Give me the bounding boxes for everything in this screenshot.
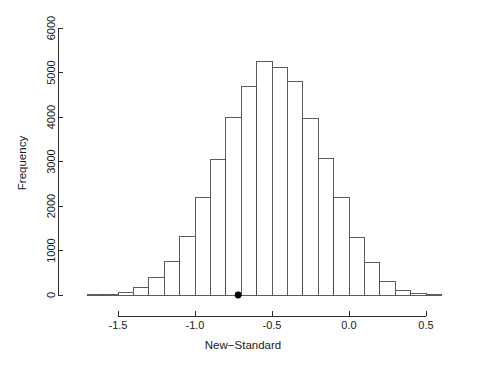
x-axis-tick-label: -0.5 [263,319,282,331]
x-axis-tick-label: 0.5 [418,319,433,331]
x-axis: -1.5-1.0-0.50.00.5 [109,311,434,331]
histogram-bar [349,237,364,295]
histogram-bar [426,294,441,295]
histogram-bar [118,292,133,295]
histogram-bar [180,236,195,295]
histogram-bar [133,287,148,295]
chart-canvas: -1.5-1.0-0.50.00.5 010002000300040005000… [0,0,477,365]
histogram-bar [395,290,410,295]
bars-group [87,61,441,295]
histogram-bar [303,118,318,295]
y-axis-tick-label: 0 [45,292,57,298]
x-axis-title: New−Standard [205,339,281,351]
histogram-plot: -1.5-1.0-0.50.00.5 010002000300040005000… [0,0,477,365]
histogram-bar [287,81,302,295]
histogram-bar [195,198,210,295]
observed-value-marker [235,292,242,299]
histogram-bar [226,117,241,295]
y-axis-tick-label: 1000 [45,238,57,262]
y-axis-title: Frequency [16,136,28,191]
histogram-bar [149,278,164,295]
histogram-bar [334,198,349,295]
y-axis-tick-label: 2000 [45,194,57,218]
x-axis-tick-label: 0.0 [341,319,356,331]
y-axis-tick-label: 4000 [45,105,57,129]
histogram-bar [164,261,179,295]
histogram-bar [257,61,272,295]
histogram-bar [103,294,118,295]
y-axis: 0100020003000400050006000 [45,16,63,298]
y-axis-tick-label: 3000 [45,149,57,173]
annotations-group [235,292,242,299]
histogram-bar [272,67,287,295]
histogram-bar [241,87,256,295]
histogram-bar [210,160,225,295]
histogram-bar [364,262,379,295]
x-axis-tick-label: -1.5 [109,319,128,331]
histogram-bar [318,158,333,295]
histogram-bar [411,294,426,295]
y-axis-tick-label: 5000 [45,60,57,84]
histogram-bar [380,281,395,295]
histogram-bar [87,294,102,295]
y-axis-tick-label: 6000 [45,16,57,40]
x-axis-tick-label: -1.0 [186,319,205,331]
